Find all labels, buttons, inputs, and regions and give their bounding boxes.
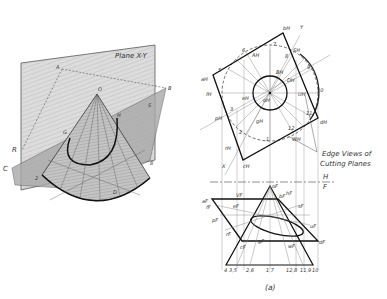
label-7: 7 xyxy=(273,41,277,47)
label-ch: cH xyxy=(243,163,250,169)
baseline-ticks: 4 3,5 2,6 1,7 12,8 11,9 10 xyxy=(224,267,318,273)
label-gf: gF xyxy=(258,238,264,245)
label-of: oF xyxy=(272,183,278,189)
engineering-drawing: Plane X-Y A B O S H G R C 2 D 8 xyxy=(0,0,387,299)
label-bf: bF xyxy=(279,193,285,199)
svg-text:2,6: 2,6 xyxy=(246,267,254,273)
label-10: 10 xyxy=(317,87,323,93)
label-sh: SH xyxy=(293,47,300,53)
point-d: D xyxy=(113,189,117,195)
label-8: 8 xyxy=(285,53,288,59)
label-y: Y xyxy=(300,24,304,30)
figure-caption: (a) xyxy=(265,283,276,292)
label-3: 3 xyxy=(230,106,233,112)
label-5: 5 xyxy=(218,67,221,73)
fold-label-f: F xyxy=(323,183,328,191)
point-h: H xyxy=(117,112,121,118)
label-11: 11 xyxy=(306,110,312,116)
plane-label: Plane X-Y xyxy=(115,52,148,60)
front-view: aF oF VF hF fF eF sF bF pF gF uF dF rF c… xyxy=(202,183,325,273)
label-cf: cF xyxy=(240,244,246,250)
point-r: R xyxy=(12,146,17,154)
label-12: 12 xyxy=(288,125,294,131)
point-a: A xyxy=(55,64,60,70)
label-1: 1 xyxy=(266,136,269,142)
label-uh: UH xyxy=(298,91,306,97)
label-df: dF xyxy=(319,239,325,245)
label-x: X xyxy=(221,163,226,169)
svg-text:3,5: 3,5 xyxy=(229,267,237,273)
label-ah: aH xyxy=(201,76,208,82)
svg-text:11,9: 11,9 xyxy=(300,267,311,273)
svg-text:10: 10 xyxy=(312,267,318,273)
annotation-line1: Edge Views of xyxy=(322,150,373,158)
label-ff: fF xyxy=(206,204,211,210)
label-ef: eF xyxy=(233,203,239,209)
svg-text:4: 4 xyxy=(224,267,227,273)
label-hf: hF xyxy=(286,190,292,196)
label-sf: sF xyxy=(298,203,304,209)
label-dh: DH xyxy=(287,77,295,83)
label-vf: VF xyxy=(236,192,242,198)
pictorial-view: Plane X-Y A B O S H G R C 2 D 8 xyxy=(3,45,172,201)
point-2: 2 xyxy=(35,175,38,181)
label-bh: bH xyxy=(283,25,290,31)
label-oh: oH xyxy=(263,97,270,103)
svg-text:1,7: 1,7 xyxy=(266,267,275,273)
label-rf: rF xyxy=(226,231,231,237)
point-g: G xyxy=(63,129,67,135)
point-b: B xyxy=(168,85,172,91)
label-wf: wF xyxy=(288,243,295,249)
point-c: C xyxy=(3,165,8,173)
point-o: O xyxy=(98,86,102,92)
point-8: 8 xyxy=(150,160,153,166)
label-eh: eH xyxy=(242,95,249,101)
svg-text:12,8: 12,8 xyxy=(286,267,297,273)
label-qh: dH xyxy=(320,119,327,125)
label-uf: uF xyxy=(310,223,316,229)
label-ph: pH xyxy=(214,115,222,122)
label-6: 6 xyxy=(242,47,245,53)
label-2: 2 xyxy=(239,129,242,135)
label-fh: fH xyxy=(206,91,212,97)
fold-label-h: H xyxy=(323,173,329,181)
label-9: 9 xyxy=(307,64,310,70)
label-gh: gH xyxy=(256,118,263,125)
label-rh: rH xyxy=(225,145,231,151)
label-wh: WH xyxy=(292,136,301,142)
label-pf: pF xyxy=(211,217,218,224)
label-bh2: BH xyxy=(276,69,283,75)
label-ah2: AH xyxy=(251,52,259,58)
annotation-line2: Cutting Planes xyxy=(320,160,371,168)
